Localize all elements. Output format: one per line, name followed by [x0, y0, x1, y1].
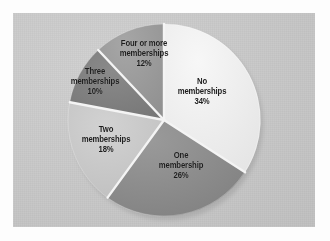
pie-chart-svg	[0, 0, 330, 241]
pie-chart-figure: No memberships 34% One membership 26% Tw…	[0, 0, 330, 241]
